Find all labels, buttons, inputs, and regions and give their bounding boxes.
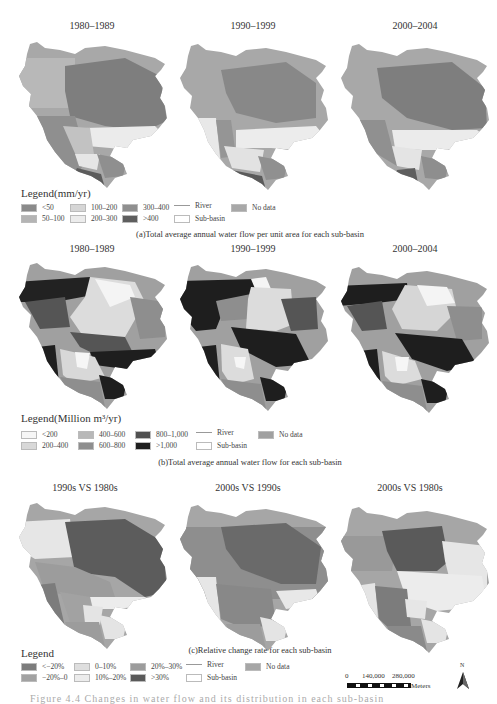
legend-item: 10%–20% [74,673,126,682]
legend-item: 0–10% [74,662,116,671]
legend-item: No data [245,662,290,671]
north-arrow-icon [456,672,470,690]
map-title-c2: 2000s VS 1990s [188,482,308,493]
map-c-00v90 [176,499,336,654]
north-label: N [460,662,464,668]
map-c-90v80 [15,497,175,652]
legend-item-subbasin: Sub-basin [186,673,237,682]
legend-swatch [21,663,37,671]
figure-caption-faded: Figure 4.4 Changes in water flow and its… [30,693,384,704]
scale-bar-graphic [347,683,411,688]
legend-item: <−20% [21,662,64,671]
scale-tick-1: 140,000 [362,672,385,680]
legend-item: 20%–30% [130,662,182,671]
legend-swatch [21,674,37,682]
legend-swatch [186,674,202,682]
map-title-c1: 1990s VS 1980s [25,482,145,493]
north-arrow: N [456,662,470,690]
river-line-icon [186,664,202,665]
legend-item-river: River [186,660,224,669]
map-c-00v80 [337,501,497,656]
scale-tick-2: 280,000 [392,672,415,680]
scale-unit: Meters [411,682,430,690]
map-title-c3: 2000s VS 1980s [350,482,470,493]
legend-swatch [245,663,261,671]
legend-item: −20%–0 [21,673,67,682]
legend-swatch [74,674,90,682]
caption-c: (c)Relative change rate for each sub-bas… [160,645,360,655]
legend-swatch [74,663,90,671]
legend-item: >30% [130,673,169,682]
legend-swatch [130,663,146,671]
scale-tick-0: 0 [345,672,349,680]
scale-bar: 0 140,000 280,000 Meters [345,672,425,692]
legend-swatch [130,674,146,682]
legend-title-c: Legend [21,647,54,659]
